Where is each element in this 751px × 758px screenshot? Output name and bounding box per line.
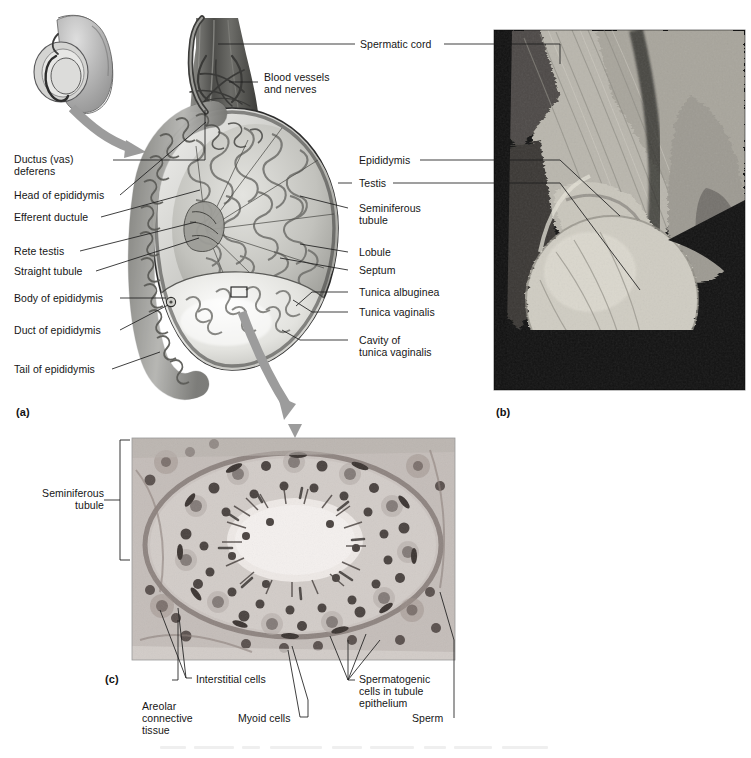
label-straight-tubule: Straight tubule: [14, 265, 83, 277]
label-sperm: Sperm: [412, 712, 443, 724]
bracket-seminiferous-tubule: [120, 440, 130, 560]
label-seminiferous-tubule-c: Seminiferous tubule: [40, 487, 104, 511]
label-ductus-vas-deferens: Ductus (vas) deferens: [14, 153, 74, 177]
label-areolar-connective-tissue: Areolar connective tissue: [142, 700, 193, 737]
label-tunica-albuginea: Tunica albuginea: [359, 286, 439, 298]
label-spermatogenic-cells: Spermatogenic cells in tubule epithelium: [359, 673, 430, 710]
label-rete-testis: Rete testis: [14, 245, 64, 257]
panel-id-b: (b): [496, 406, 510, 418]
label-seminiferous-tubule-a: Seminiferous tubule: [359, 202, 421, 226]
artwork-layer: [0, 0, 751, 758]
label-tunica-vaginalis: Tunica vaginalis: [359, 306, 435, 318]
label-spermatic-cord: Spermatic cord: [360, 38, 431, 50]
panel-id-c: (c): [105, 673, 119, 685]
label-efferent-ductule: Efferent ductule: [14, 211, 88, 223]
cropped-caption-remnant: [120, 742, 600, 752]
label-tail-of-epididymis: Tail of epididymis: [14, 363, 95, 375]
label-head-of-epididymis: Head of epididymis: [14, 189, 104, 201]
label-duct-of-epididymis: Duct of epididymis: [14, 324, 101, 336]
figure-testis-anatomy: Ductus (vas) deferens Head of epididymis…: [0, 0, 751, 758]
panel-b-photograph: [494, 30, 745, 390]
label-septum: Septum: [359, 264, 396, 276]
label-myoid-cells: Myoid cells: [238, 712, 291, 724]
label-lobule: Lobule: [359, 246, 391, 258]
label-body-of-epididymis: Body of epididymis: [14, 292, 103, 304]
label-epididymis: Epididymis: [359, 154, 410, 166]
label-testis: Testis: [359, 177, 386, 189]
label-interstitial-cells: Interstitial cells: [196, 673, 266, 685]
orientation-inset: [34, 15, 146, 158]
panel-id-a: (a): [16, 406, 30, 418]
label-blood-vessels-nerves: Blood vessels and nerves: [264, 71, 329, 95]
label-cavity-tunica-vaginalis: Cavity of tunica vaginalis: [359, 334, 432, 358]
